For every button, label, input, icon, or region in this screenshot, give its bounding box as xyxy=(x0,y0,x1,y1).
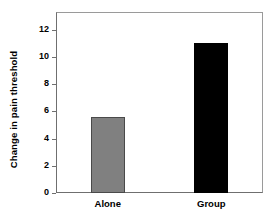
y-tick-mark xyxy=(52,111,56,112)
y-tick-label: 4 xyxy=(44,133,49,144)
y-tick-label: 8 xyxy=(44,78,49,89)
bar-alone xyxy=(91,117,125,193)
y-tick-label: 6 xyxy=(44,105,49,116)
bar-chart: Change in pain threshold 024681012 Alone… xyxy=(0,0,279,219)
y-tick-mark xyxy=(52,57,56,58)
y-tick-mark xyxy=(52,84,56,85)
bar-group xyxy=(194,43,228,193)
plot-area xyxy=(56,12,263,193)
y-tick-label: 0 xyxy=(44,187,49,198)
y-tick-label: 10 xyxy=(39,51,49,62)
y-tick-mark xyxy=(52,166,56,167)
y-tick-mark xyxy=(52,30,56,31)
y-tick-label: 12 xyxy=(39,24,49,35)
y-tick-mark xyxy=(52,139,56,140)
x-axis-label-group: Group xyxy=(171,198,251,210)
y-axis-title: Change in pain threshold xyxy=(2,0,24,219)
y-tick-mark xyxy=(52,193,56,194)
x-axis-label-alone: Alone xyxy=(68,198,148,210)
y-tick-label: 2 xyxy=(44,160,49,171)
